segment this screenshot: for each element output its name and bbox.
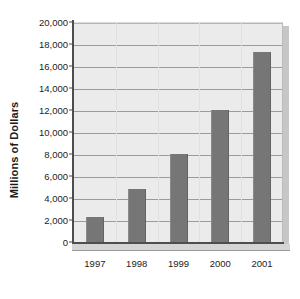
plot-shadow-right [283,26,289,246]
y-axis-tick-mark [69,88,74,89]
gridline [74,89,282,90]
bar-2000 [211,110,229,242]
y-axis-tick-label: 2,000 [24,215,68,226]
gridline [74,23,282,24]
category-separator [199,23,200,242]
x-axis-tick-label: 1999 [168,258,189,269]
y-axis-tick-label: 6,000 [24,171,68,182]
y-axis-title: Millions of Dollars [2,0,26,299]
x-axis-tick-label: 1997 [84,258,105,269]
y-axis-tick-mark [69,176,74,177]
y-axis-tick-label: 8,000 [24,149,68,160]
y-axis-tick-mark [69,132,74,133]
category-separator [241,23,242,242]
y-axis-tick-labels: 02,0004,0006,0008,00010,00012,00014,0001… [24,22,68,242]
gridline [74,67,282,68]
x-axis-plinth-bevel [66,251,290,256]
x-axis-tick-label: 2000 [210,258,231,269]
y-axis-tick-label: 20,000 [24,17,68,28]
bar-1998 [128,189,146,242]
bar-1997 [86,217,104,242]
gridline [74,133,282,134]
bar-1999 [170,154,188,242]
y-axis-tick-mark [69,220,74,221]
y-axis-tick-label: 18,000 [24,39,68,50]
y-axis-tick-mark [69,242,74,243]
x-axis-tick-label: 1998 [126,258,147,269]
x-axis-plinth [72,244,290,251]
y-axis-tick-label: 4,000 [24,193,68,204]
y-axis-tick-mark [69,110,74,111]
bar-2001 [253,52,271,242]
y-axis-tick-label: 14,000 [24,83,68,94]
y-axis-tick-label: 0 [24,237,68,248]
bar-chart: Millions of Dollars 02,0004,0006,0008,00… [0,0,300,299]
category-separator [116,23,117,242]
category-separator [158,23,159,242]
y-axis-tick-mark [69,198,74,199]
x-axis-tick-label: 2001 [252,258,273,269]
y-axis-tick-mark [69,44,74,45]
x-axis-tick-labels: 19971998199920002001 [74,258,283,278]
y-axis-title-text: Millions of Dollars [8,101,20,198]
plot-area [74,22,283,242]
y-axis-tick-mark [69,66,74,67]
y-axis-tick-label: 12,000 [24,105,68,116]
y-axis-tick-mark [69,154,74,155]
gridline [74,111,282,112]
y-axis-tick-label: 10,000 [24,127,68,138]
y-axis-tick-mark [69,22,74,23]
y-axis-tick-label: 16,000 [24,61,68,72]
gridline [74,45,282,46]
